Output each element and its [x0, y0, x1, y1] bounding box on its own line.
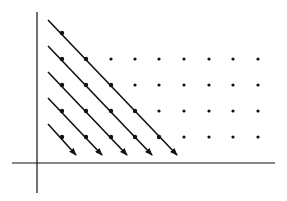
lattice-point: [109, 57, 112, 60]
lattice-point: [256, 109, 259, 112]
lattice-point-on-arrow: [109, 83, 113, 87]
lattice-point-on-arrow: [157, 135, 161, 139]
lattice-point: [157, 109, 160, 112]
lattice-point-on-arrow: [84, 83, 88, 87]
lattice-point-on-arrow: [60, 135, 64, 139]
lattice-point: [231, 57, 234, 60]
lattice-point-on-arrow: [60, 31, 64, 35]
lattice-point: [182, 109, 185, 112]
lattice-point: [207, 83, 210, 86]
lattice-point: [256, 83, 259, 86]
lattice-point-on-arrow: [109, 135, 113, 139]
lattice-point: [157, 83, 160, 86]
lattice-point: [231, 109, 234, 112]
lattice-point: [231, 83, 234, 86]
diagonal-arrows: [48, 20, 177, 155]
lattice-point-on-arrow: [60, 83, 64, 87]
lattice-point-on-arrow: [84, 135, 88, 139]
lattice-point-on-arrow: [84, 109, 88, 113]
lattice-point: [231, 135, 234, 138]
lattice-point: [133, 83, 136, 86]
lattice-point: [207, 135, 210, 138]
lattice-point-on-arrow: [60, 57, 64, 61]
lattice-point: [157, 57, 160, 60]
lattice-point: [133, 57, 136, 60]
lattice-point-on-arrow: [84, 57, 88, 61]
lattice-point: [182, 135, 185, 138]
lattice-point: [182, 57, 185, 60]
lattice-diagram: [0, 0, 287, 201]
free-lattice-points: [109, 57, 259, 138]
diagonal-arrow-4: [48, 98, 102, 155]
lattice-point: [256, 57, 259, 60]
diagonal-arrow-5: [48, 124, 76, 155]
diagonal-arrow-1: [48, 20, 177, 155]
lattice-point-on-arrow: [133, 135, 137, 139]
lattice-point-on-arrow: [133, 109, 137, 113]
lattice-point-on-arrow: [60, 109, 64, 113]
lattice-point-on-arrow: [109, 109, 113, 113]
lattice-point: [207, 109, 210, 112]
lattice-point: [207, 57, 210, 60]
lattice-point: [256, 135, 259, 138]
lattice-point: [182, 83, 185, 86]
